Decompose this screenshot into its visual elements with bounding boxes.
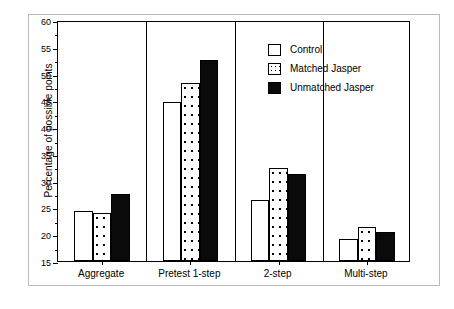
- x-axis-tick: [102, 261, 103, 265]
- legend-label: Control: [290, 44, 322, 55]
- legend-swatch-matched: [268, 63, 281, 75]
- y-axis-minor-tick: [55, 62, 58, 63]
- y-axis-minor-tick: [55, 116, 58, 117]
- legend-label: Unmatched Jasper: [290, 82, 374, 93]
- y-axis-tick: [53, 76, 58, 77]
- y-axis-tick: [53, 22, 58, 23]
- y-axis-tick: [53, 209, 58, 210]
- legend-item: Matched Jasper: [268, 59, 374, 78]
- y-axis-tick-label: 50: [41, 71, 51, 81]
- y-axis-tick-label: 20: [41, 231, 51, 241]
- y-axis-tick: [53, 156, 58, 157]
- y-axis-tick-label: 25: [41, 204, 51, 214]
- bar-control: [251, 200, 270, 261]
- bar-chart-figure: Percentage of possible points 1520253035…: [0, 0, 454, 309]
- bar-matched: [269, 168, 288, 261]
- x-axis-tick: [367, 261, 368, 265]
- y-axis-tick-label: 30: [41, 178, 51, 188]
- y-axis-tick-label: 15: [41, 258, 51, 268]
- x-axis-tick: [279, 261, 280, 265]
- legend-item: Control: [268, 40, 374, 59]
- y-axis-tick: [53, 236, 58, 237]
- legend-swatch-unmatched: [268, 82, 281, 94]
- bar-matched: [93, 213, 112, 261]
- y-axis-minor-tick: [55, 169, 58, 170]
- x-axis-category-label: Aggregate: [78, 268, 124, 279]
- y-axis-tick-label: 60: [41, 17, 51, 27]
- y-axis-tick: [53, 102, 58, 103]
- x-axis-tick: [190, 261, 191, 265]
- bar-matched: [358, 227, 377, 261]
- legend-swatch-control: [268, 44, 281, 56]
- bar-unmatched: [200, 60, 219, 261]
- y-axis-tick-label: 40: [41, 124, 51, 134]
- bar-control: [163, 102, 182, 261]
- y-axis-minor-tick: [55, 89, 58, 90]
- x-axis-category-label: Multi-step: [344, 268, 387, 279]
- y-axis-tick-label: 35: [41, 151, 51, 161]
- y-axis-tick: [53, 49, 58, 50]
- y-axis-minor-tick: [55, 143, 58, 144]
- y-axis-tick: [53, 263, 58, 264]
- legend-item: Unmatched Jasper: [268, 78, 374, 97]
- chart-legend: ControlMatched JasperUnmatched Jasper: [268, 40, 374, 97]
- bar-unmatched: [111, 194, 130, 261]
- y-axis-minor-tick: [55, 223, 58, 224]
- bar-unmatched: [288, 174, 307, 261]
- x-axis-category-label: Pretest 1-step: [158, 268, 220, 279]
- group-separator: [235, 22, 236, 261]
- y-axis-minor-tick: [55, 35, 58, 36]
- y-axis-tick-label: 45: [41, 97, 51, 107]
- bar-matched: [181, 83, 200, 261]
- x-axis-category-label: 2-step: [264, 268, 292, 279]
- y-axis-tick: [53, 183, 58, 184]
- y-axis-minor-tick: [55, 250, 58, 251]
- y-axis-minor-tick: [55, 196, 58, 197]
- group-separator: [146, 22, 147, 261]
- y-axis-tick: [53, 129, 58, 130]
- bar-unmatched: [376, 232, 395, 261]
- y-axis-tick-label: 55: [41, 44, 51, 54]
- legend-label: Matched Jasper: [290, 63, 361, 74]
- bar-control: [339, 239, 358, 261]
- bar-control: [74, 211, 93, 261]
